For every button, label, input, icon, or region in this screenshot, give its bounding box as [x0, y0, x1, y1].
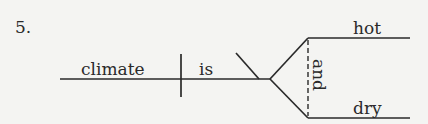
- sentence-diagram: 5. climate is hot dry and: [0, 0, 428, 124]
- fork-upper-branch: [270, 38, 308, 79]
- conjunction-word: and: [309, 59, 329, 91]
- subject-word: climate: [81, 59, 145, 79]
- fork-lower-branch: [270, 79, 308, 118]
- item-number: 5.: [15, 17, 31, 37]
- verb-word: is: [199, 59, 213, 79]
- adjective-hot: hot: [353, 18, 381, 38]
- adjective-dry: dry: [353, 98, 382, 118]
- predicate-slash: [236, 53, 259, 79]
